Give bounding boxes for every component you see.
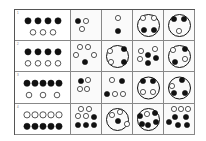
filled-dot [183,114,188,119]
filled-dot [137,113,142,118]
filled-dot [171,16,176,21]
hollow-dot [108,59,113,64]
filled-dot [153,119,158,124]
hollow-dot [176,28,181,33]
filled-dot [145,60,150,65]
hollow-dot [150,89,155,94]
filled-dot [121,46,126,51]
hollow-dot [109,112,114,117]
hollow-dot [107,48,112,53]
hollow-dot [54,92,60,98]
filled-dot [45,49,51,55]
hollow-dot [55,61,61,67]
filled-dot [82,59,87,64]
filled-dot [55,18,61,24]
hollow-dot [40,112,46,118]
filled-dot [35,49,41,55]
stem-cell: 2 [15,41,71,72]
stem-cell: 3 [15,72,71,104]
filled-dot [121,59,126,64]
filled-dot [24,80,30,86]
puzzle-grid: 1234 [14,9,195,135]
filled-dot [40,123,46,129]
filled-dot [35,18,41,24]
filled-dot [175,122,180,127]
hollow-dot [79,26,84,31]
option-cell[interactable] [102,41,133,72]
hollow-dot [40,30,46,36]
option-cell[interactable] [71,104,102,135]
option-cell[interactable] [133,41,164,72]
filled-dot [151,27,156,32]
hollow-dot [30,30,36,36]
option-cell[interactable] [164,41,195,72]
filled-dot [145,52,150,57]
hollow-dot [152,46,157,51]
hollow-dot [144,111,149,116]
hollow-dot [77,86,82,91]
filled-dot [179,77,184,82]
stem-cell: 1 [15,10,71,41]
hollow-dot [151,15,156,20]
option-cell[interactable] [133,72,164,104]
hollow-dot [83,113,88,118]
filled-dot [140,78,145,83]
hollow-dot [140,15,145,20]
hollow-dot [45,61,51,67]
hollow-dot [86,106,91,111]
filled-dot [104,91,109,96]
hollow-dot [91,52,96,57]
hollow-dot [48,112,54,118]
option-cell[interactable] [102,104,133,135]
filled-dot [181,16,186,21]
filled-dot [153,55,158,60]
hollow-dot [56,112,62,118]
hollow-dot [115,15,120,20]
filled-dot [32,123,38,129]
filled-dot [115,28,120,33]
filled-dot [24,123,30,129]
hollow-dot [178,106,183,111]
hollow-dot [138,48,143,53]
filled-dot [75,18,80,23]
option-cell[interactable] [133,104,164,135]
option-cell[interactable] [164,10,195,41]
filled-dot [145,122,150,127]
hollow-dot [84,86,89,91]
hollow-dot [170,47,175,52]
hollow-dot [75,113,80,118]
option-cell[interactable] [164,72,195,104]
hollow-dot [25,61,31,67]
filled-dot [78,78,83,83]
filled-dot [56,123,62,129]
hollow-dot [120,91,125,96]
filled-dot [172,59,177,64]
hollow-dot [85,77,90,82]
option-cell[interactable] [71,72,102,104]
option-cell[interactable] [71,41,102,72]
hollow-dot [124,121,129,126]
hollow-dot [78,106,83,111]
hollow-dot [32,112,38,118]
filled-dot [141,27,146,32]
option-cell[interactable] [102,72,133,104]
filled-dot [40,80,46,86]
option-cell[interactable] [133,10,164,41]
filled-dot [182,90,187,95]
filled-dot [150,78,155,83]
hollow-dot [117,109,122,114]
filled-dot [182,46,187,51]
hollow-dot [85,44,90,49]
stem-cell: 4 [15,104,71,135]
filled-dot [152,110,157,115]
hollow-dot [83,18,88,23]
filled-dot [25,49,31,55]
filled-dot [119,78,124,83]
option-cell[interactable] [102,10,133,41]
option-cell[interactable] [164,104,195,135]
hollow-dot [112,91,117,96]
option-cell[interactable] [71,10,102,41]
hollow-dot [171,106,176,111]
filled-dot [166,119,171,124]
hollow-dot [109,77,114,82]
